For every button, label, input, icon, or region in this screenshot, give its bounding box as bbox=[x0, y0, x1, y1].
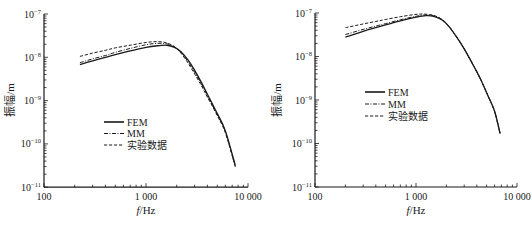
legend-label: 实验数据 bbox=[388, 110, 428, 122]
x-axis-title: f/Hz bbox=[407, 204, 426, 216]
legend-label: MM bbox=[127, 128, 145, 139]
y-tick-label: 10−8 bbox=[24, 51, 41, 63]
legend-label: 实验数据 bbox=[127, 139, 167, 151]
figure: 1001 00010 00010−710−810−910−1010−11f/Hz… bbox=[0, 0, 532, 226]
x-tick-label: 10 000 bbox=[503, 191, 531, 202]
x-tick-label: 10 000 bbox=[234, 191, 262, 202]
legend-label: MM bbox=[388, 99, 406, 110]
legend-label: FEM bbox=[127, 117, 148, 128]
y-tick-label: 10−9 bbox=[295, 94, 312, 106]
y-tick-label: 10−7 bbox=[295, 7, 313, 19]
right-chart-panel: 1001 00010 00010−710−810−910−1010−11f/Hz… bbox=[270, 7, 531, 217]
x-tick-label: 100 bbox=[308, 191, 323, 202]
legend-label: FEM bbox=[388, 87, 409, 98]
x-tick-label: 1 000 bbox=[405, 191, 428, 202]
left-chart-panel: 1001 00010 00010−710−810−910−1010−11f/Hz… bbox=[3, 8, 262, 217]
axes: 1001 00010 00010−710−810−910−1010−11f/Hz… bbox=[3, 8, 262, 217]
y-tick-label: 10−10 bbox=[21, 137, 41, 149]
x-tick-label: 100 bbox=[37, 191, 52, 202]
y-axis-title: 振幅/m bbox=[270, 83, 283, 117]
y-tick-label: 10−7 bbox=[24, 8, 42, 20]
legend: FEMMM实验数据 bbox=[365, 87, 428, 122]
y-axis-title: 振幅/m bbox=[3, 83, 16, 117]
y-tick-label: 10−9 bbox=[24, 94, 41, 106]
x-axis-title: f/Hz bbox=[137, 204, 156, 216]
legend: FEMMM实验数据 bbox=[104, 117, 167, 151]
y-tick-label: 10−10 bbox=[292, 137, 312, 149]
y-tick-label: 10−8 bbox=[295, 50, 312, 62]
x-tick-label: 1 000 bbox=[135, 191, 158, 202]
chart-canvas: 1001 00010 00010−710−810−910−1010−11f/Hz… bbox=[0, 0, 532, 226]
